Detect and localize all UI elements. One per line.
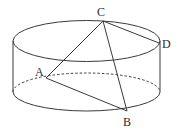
top-base-ellipse — [13, 21, 160, 62]
cylinder-diagram: C D A B — [0, 0, 180, 133]
label-B: B — [123, 115, 131, 129]
segment-AB — [46, 78, 127, 111]
segment-CB — [103, 21, 127, 111]
label-D: D — [162, 37, 171, 51]
segment-AC — [46, 21, 103, 78]
label-A: A — [35, 65, 44, 79]
label-C: C — [97, 5, 105, 19]
